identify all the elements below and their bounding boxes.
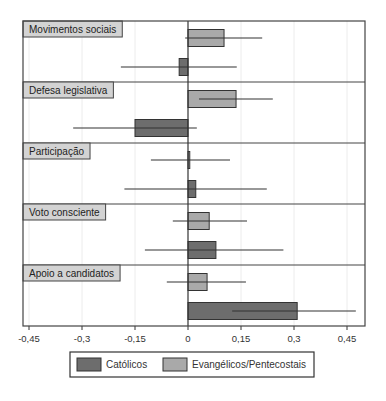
panel-label: Apoio a candidatos xyxy=(29,268,114,279)
x-tick-label: 0,3 xyxy=(287,333,300,344)
legend: Católicos Evangélicos/Pentecostais xyxy=(70,352,314,377)
coefficient-bar-chart: Movimentos sociaisDefesa legislativaPart… xyxy=(0,0,386,401)
legend-label-catolicos: Católicos xyxy=(106,359,147,370)
x-tick-label: 0,15 xyxy=(232,333,251,344)
panel-label: Movimentos sociais xyxy=(29,24,116,35)
x-tick-label: -0,3 xyxy=(74,333,90,344)
panel-label: Participação xyxy=(29,146,84,157)
x-tick-label: 0 xyxy=(185,333,190,344)
legend-label-evangelicos: Evangélicos/Pentecostais xyxy=(192,359,306,370)
x-tick-label: 0,45 xyxy=(338,333,357,344)
panel-label: Voto consciente xyxy=(29,207,100,218)
legend-swatch-catolicos xyxy=(77,358,101,371)
panel-label: Defesa legislativa xyxy=(29,85,108,96)
legend-swatch-evangelicos xyxy=(163,358,187,371)
x-tick-label: -0,45 xyxy=(18,333,40,344)
x-tick-label: -0,15 xyxy=(124,333,146,344)
